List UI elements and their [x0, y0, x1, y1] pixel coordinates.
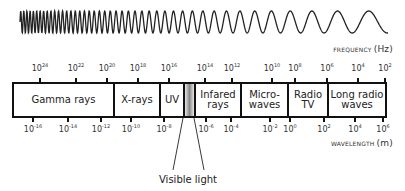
band-radio-tv: Radio TV — [289, 84, 329, 116]
band-label-line: waves — [341, 99, 373, 110]
band-visible-light — [185, 84, 196, 116]
band-label: Long radio waves — [331, 90, 384, 110]
wavelength-tick-label: 10-2 — [262, 123, 277, 134]
frequency-tick-label: 1016 — [161, 62, 178, 73]
wavelength-tick-label: 102 — [317, 123, 330, 134]
wavelength-tick-mark — [163, 118, 165, 122]
band-label-line: rays — [207, 99, 228, 110]
wavelength-tick-mark — [205, 118, 207, 122]
wavelength-tick-mark — [382, 118, 384, 122]
wavelength-title-text: WAVELENGTH — [331, 140, 374, 147]
wavelength-tick-label: 106 — [376, 123, 389, 134]
frequency-tick-label: 1022 — [68, 62, 85, 73]
frequency-unit: (Hz) — [374, 44, 393, 54]
frequency-tick-label: 1010 — [264, 62, 281, 73]
wavelength-tick-mark — [354, 118, 356, 122]
wave-graphic — [0, 0, 405, 45]
band-microwaves: Micro- waves — [242, 84, 289, 116]
wavelength-tick-label: 10-12 — [92, 123, 110, 134]
wavelength-tick-label: 10-10 — [122, 123, 140, 134]
wavelength-tick-mark — [32, 118, 34, 122]
frequency-axis-title: FREQUENCY (Hz) — [333, 44, 393, 54]
frequency-tick-label: 1024 — [32, 62, 49, 73]
wavelength-tick-mark — [67, 118, 69, 122]
wavelength-tick-mark — [230, 118, 232, 122]
frequency-tick-label: 1012 — [224, 62, 241, 73]
wavelength-tick-mark — [323, 118, 325, 122]
frequency-tick-label: 104 — [351, 62, 364, 73]
band-uv: UV — [161, 84, 185, 116]
band-gamma-rays: Gamma rays — [14, 84, 115, 116]
band-long-radio-waves: Long radio waves — [329, 84, 385, 116]
wavelength-axis-title: WAVELENGTH (m) — [331, 138, 393, 148]
wavelength-tick-mark — [269, 118, 271, 122]
wavelength-tick-label: 104 — [348, 123, 361, 134]
band-label: Gamma rays — [31, 95, 95, 105]
band-label: Radio TV — [294, 90, 322, 110]
band-label: Infared rays — [200, 90, 235, 110]
wavelength-tick-label: 10-6 — [198, 123, 213, 134]
band-label: Micro- waves — [249, 90, 281, 110]
wavelength-tick-label: 10-14 — [59, 123, 77, 134]
wavelength-tick-label: 10-4 — [223, 123, 238, 134]
frequency-tick-label: 1014 — [197, 62, 214, 73]
frequency-tick-label: 1020 — [99, 62, 116, 73]
band-infrared: Infared rays — [196, 84, 242, 116]
frequency-tick-label: 102 — [378, 62, 391, 73]
wavelength-tick-label: 10-16 — [24, 123, 42, 134]
band-label: UV — [165, 95, 179, 105]
band-label: X-rays — [121, 95, 152, 105]
band-label-line: TV — [302, 99, 315, 110]
wavelength-unit: (m) — [377, 138, 393, 148]
wavelength-tick-mark — [289, 118, 291, 122]
wavelength-tick-label: 100 — [283, 123, 296, 134]
visible-light-label: Visible light — [159, 174, 217, 185]
spectrum-band-box: Gamma rays X-rays UV Infared rays Micro-… — [12, 82, 387, 118]
wavelength-tick-mark — [100, 118, 102, 122]
wavelength-tick-label: 10-8 — [156, 123, 171, 134]
frequency-tick-label: 106 — [320, 62, 333, 73]
frequency-tick-label: 1018 — [130, 62, 147, 73]
band-label-line: waves — [249, 99, 281, 110]
frequency-title-text: FREQUENCY — [333, 46, 371, 53]
frequency-tick-label: 108 — [288, 62, 301, 73]
band-x-rays: X-rays — [115, 84, 161, 116]
wavelength-tick-mark — [130, 118, 132, 122]
